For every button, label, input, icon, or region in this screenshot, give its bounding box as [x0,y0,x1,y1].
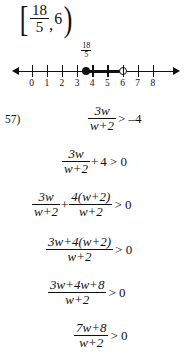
equation-step-3: 3w w+2 + 4(w+2) w+2 > 0 [32,190,132,219]
interval-comma: , [49,15,54,35]
step3-denominator-b: w+2 [69,204,112,219]
tick-5 [107,65,108,77]
tick-2 [62,65,63,77]
tick-label-6: 6 [117,78,129,88]
step3-numerator-b: 4(w+2) [69,190,112,204]
tick-label-0: 0 [26,78,38,88]
step6-numerator: 7w+8 [74,321,108,335]
step6-relation: > 0 [108,328,127,344]
tick-label-1: 1 [41,78,53,88]
tick-6 [123,65,124,77]
open-bracket: [ [20,4,29,34]
step6-denominator: w+2 [74,335,108,350]
interval-answer: [185,6) [18,2,74,35]
step5-denominator: w+2 [48,292,106,307]
step2-addend: 4 [99,154,108,170]
step2-numerator: 3w [62,147,90,161]
closed-endpoint-dot [82,67,90,75]
step2-denominator: w+2 [62,161,90,176]
step4-fraction: 3w+4(w+2) w+2 [46,235,113,264]
problem-number: 57) [5,113,20,125]
step3-fraction-a: 3w w+2 [32,190,60,219]
closed-endpoint-label: 18 5 [73,42,99,60]
interval-upper-bound: 6 [54,10,62,28]
tick-8 [153,65,154,77]
equation-step-1: 3w w+2 > –4 [88,104,142,133]
tick-label-2: 2 [56,78,68,88]
step5-numerator: 3w+4w+8 [48,278,106,292]
step4-numerator: 3w+4(w+2) [46,235,113,249]
interval-lower-denominator: 5 [30,18,49,35]
tick-label-4: 4 [86,78,98,88]
number-line-graph: 18 5 012345678 [0,42,188,88]
step1-relation: > –4 [116,111,142,127]
step3-denominator-a: w+2 [32,204,60,219]
step2-relation: > 0 [108,154,127,170]
step1-denominator: w+2 [88,118,116,133]
equation-step-6: 7w+8 w+2 > 0 [74,321,128,350]
tick-label-3: 3 [71,78,83,88]
step4-relation: > 0 [113,242,132,258]
equation-step-4: 3w+4(w+2) w+2 > 0 [46,235,132,264]
tick-label-8: 8 [147,78,159,88]
tick-3 [77,65,78,77]
tick-4 [92,65,93,77]
step5-fraction: 3w+4w+8 w+2 [48,278,106,307]
close-bracket: ) [64,4,73,34]
equation-step-5: 3w+4w+8 w+2 > 0 [48,278,125,307]
step1-fraction: 3w w+2 [88,104,116,133]
step2-plus-sign: + [90,154,99,170]
step3-numerator-a: 3w [32,190,60,204]
interval-lower-bound-fraction: 185 [30,2,49,35]
equation-step-2: 3w w+2 +4> 0 [62,147,127,176]
step1-numerator: 3w [88,104,116,118]
tick-label-7: 7 [132,78,144,88]
tick-1 [47,65,48,77]
step6-fraction: 7w+8 w+2 [74,321,108,350]
closed-endpoint-label-denominator: 5 [81,50,91,59]
step3-relation: > 0 [112,197,131,213]
closed-endpoint-label-numerator: 18 [73,42,99,50]
step5-relation: > 0 [106,285,125,301]
step3-fraction-b: 4(w+2) w+2 [69,190,112,219]
step4-denominator: w+2 [46,249,113,264]
interval-lower-numerator: 18 [30,2,49,18]
right-arrow-icon [173,67,180,75]
step3-plus-sign: + [60,197,69,213]
tick-0 [32,65,33,77]
tick-label-5: 5 [101,78,113,88]
step2-fraction: 3w w+2 [62,147,90,176]
tick-7 [138,65,139,77]
